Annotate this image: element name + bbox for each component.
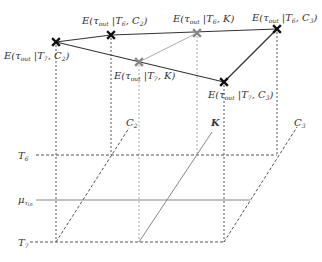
line-t7c2-t6c2: [56, 35, 111, 42]
axis-label-c3: C3: [294, 117, 306, 129]
axis-label-k: K: [210, 117, 221, 128]
c2-depth-line: [56, 128, 129, 242]
axis-label-t6: T6: [18, 150, 29, 162]
line-t7c3-t6c3: [224, 29, 277, 82]
axis-label-c2: C2: [126, 117, 138, 129]
axis-labels: T6 μτin T7 C2 K C3: [18, 117, 306, 249]
axis-label-mu: μτin: [18, 194, 33, 207]
label-t7k: E(τout |T7, K): [113, 70, 176, 82]
marker-t6k-x-icon: [194, 30, 200, 36]
label-t7c2: E(τout |T7, C2): [3, 50, 70, 62]
point-labels: E(τout |T6, C2) E(τout |T6, K) E(τout |T…: [3, 12, 318, 101]
label-t6c2: E(τout |T6, C2): [81, 15, 148, 27]
horizontal-levels: [30, 155, 277, 242]
label-t7c3: E(τout |T7, C3): [207, 89, 274, 101]
expectation-diagram: E(τout |T6, C2) E(τout |T6, K) E(τout |T…: [0, 0, 322, 262]
label-t6k: E(τout |T6, K): [172, 13, 235, 25]
depth-lines: [56, 127, 297, 242]
axis-label-t7: T7: [18, 237, 29, 249]
c3-depth-line: [224, 127, 297, 242]
k-depth-line: [139, 132, 212, 242]
label-t6c3: E(τout |T6, C3): [251, 12, 318, 24]
line-t7k-t6k: [139, 33, 197, 62]
